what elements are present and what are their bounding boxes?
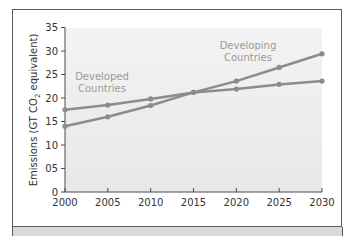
x-tick-label: 2020 (224, 197, 249, 208)
data-point (319, 78, 324, 83)
y-axis-ticks: 005101520253035 (45, 22, 65, 198)
y-tick-label: 30 (45, 46, 58, 57)
data-point (105, 114, 110, 119)
y-tick-label: 05 (45, 163, 58, 174)
series-annotation: Countries (78, 83, 126, 94)
y-tick-label: 20 (45, 93, 58, 104)
y-tick-label: 25 (45, 69, 58, 80)
y-tick-label: 0 (52, 187, 58, 198)
series-annotation: Countries (224, 52, 272, 63)
x-tick-label: 2030 (309, 197, 334, 208)
data-point (148, 103, 153, 108)
x-tick-label: 2010 (138, 197, 163, 208)
series-annotation: Developing (220, 40, 277, 51)
y-tick-label: 15 (45, 116, 58, 127)
series-annotation: Developed (75, 71, 129, 82)
y-tick-label: 10 (45, 140, 58, 151)
data-point (277, 65, 282, 70)
x-tick-label: 2025 (266, 197, 291, 208)
data-point (105, 102, 110, 107)
plot-area (65, 28, 322, 192)
y-tick-label: 35 (45, 22, 58, 33)
line-chart: 005101520253035 200020052010201520202025… (0, 0, 354, 236)
x-tick-label: 2000 (52, 197, 77, 208)
x-tick-label: 2005 (95, 197, 120, 208)
data-point (234, 86, 239, 91)
y-axis-label: Emissions (GT CO2 equivalent) (28, 34, 42, 187)
data-point (62, 107, 67, 112)
data-point (191, 90, 196, 95)
data-point (234, 78, 239, 83)
data-point (62, 124, 67, 129)
data-point (148, 96, 153, 101)
data-point (277, 82, 282, 87)
x-tick-label: 2015 (181, 197, 206, 208)
data-point (319, 51, 324, 56)
